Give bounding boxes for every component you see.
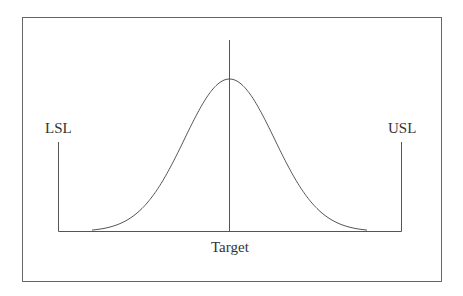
target-label: Target	[211, 240, 249, 255]
lsl-label: LSL	[45, 121, 72, 136]
usl-label: USL	[388, 121, 416, 136]
